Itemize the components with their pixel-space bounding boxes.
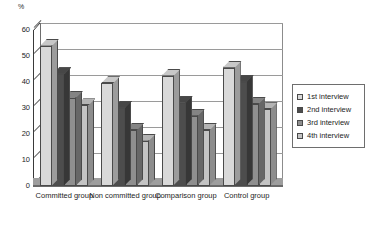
bar-side-face [197, 109, 204, 186]
bar-chart: % 0102030405060 Committed groupNon commi… [0, 0, 373, 230]
bar-side-face [258, 97, 265, 186]
bar-side-face [75, 91, 82, 186]
legend-item: 2nd interview [297, 103, 360, 116]
bar-side-face [63, 67, 70, 186]
bar-side-face [270, 102, 277, 186]
bar [223, 68, 235, 186]
legend-label: 2nd interview [307, 105, 351, 114]
bar-side-face [112, 76, 119, 186]
legend-item: 3rd interview [297, 116, 360, 129]
bar-side-face [246, 75, 253, 186]
bar-side-face [234, 61, 241, 186]
bar-side-face [209, 123, 216, 186]
bar-side-face [136, 123, 143, 186]
bar-side-face [87, 98, 94, 186]
bar-side-face [185, 96, 192, 186]
legend-label: 3rd interview [307, 118, 350, 127]
chart-legend: 1st interview2nd interview3rd interview4… [292, 84, 365, 148]
bar [40, 46, 52, 186]
legend-label: 1st interview [307, 92, 349, 101]
x-axis-category-label: Control group [210, 191, 283, 201]
bar-side-face [173, 69, 180, 187]
legend-label: 4th interview [307, 131, 349, 140]
bar-side-face [124, 101, 131, 186]
bar-side-face [148, 134, 155, 187]
legend-swatch-icon [297, 133, 303, 139]
bar [101, 83, 113, 186]
bar-side-face [51, 39, 58, 186]
bar [162, 76, 174, 187]
legend-item: 1st interview [297, 90, 360, 103]
legend-item: 4th interview [297, 129, 360, 142]
legend-swatch-icon [297, 120, 303, 126]
legend-swatch-icon [297, 107, 303, 113]
legend-swatch-icon [297, 94, 303, 100]
